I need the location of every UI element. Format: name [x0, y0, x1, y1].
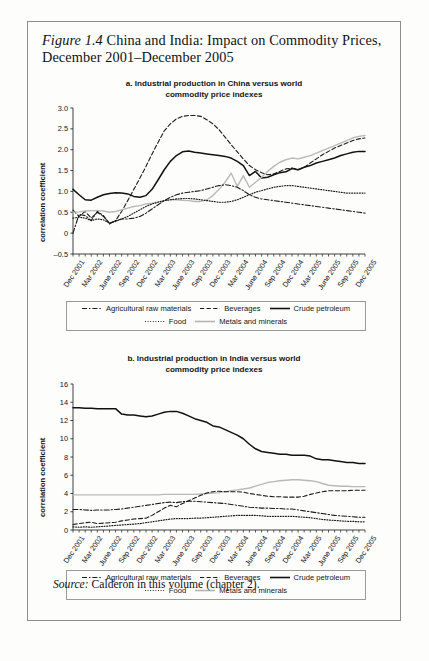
figure-frame: Figure 1.4 China and India: Impact on Co…: [27, 21, 401, 621]
y-tick-label: –0.5: [42, 250, 68, 259]
panel-b-title-line1: b. Industrial production in India versus…: [28, 354, 400, 365]
source-note: Source: Calderón in this volume (chapter…: [53, 578, 260, 591]
legend-item-label: Crude petroleum: [294, 304, 351, 313]
series-line: [73, 408, 365, 464]
legend-item-label: Food: [169, 317, 186, 326]
legend-item-metals-and-minerals: Metals and minerals: [195, 317, 287, 326]
y-tick-label: 14: [42, 398, 68, 407]
panel-a-legend: Agricultural raw materialsBeveragesCrude…: [66, 301, 366, 331]
legend-swatch-solid: [195, 318, 215, 325]
legend-item-crude-petroleum: Crude petroleum: [270, 304, 351, 313]
y-tick-label: 8: [42, 453, 68, 462]
y-tick-label: 2.0: [42, 145, 68, 154]
series-line: [73, 116, 365, 224]
y-tick-label: 0: [42, 526, 68, 535]
y-tick-label: 1.5: [42, 166, 68, 175]
y-tick-label: 0: [42, 229, 68, 238]
legend-item-beverages: Beverages: [200, 304, 260, 313]
legend-item-label: Agricultural raw materials: [106, 304, 191, 313]
legend-item-label: Beverages: [224, 304, 260, 313]
legend-swatch-solid: [270, 305, 290, 312]
legend-item-label: Crude petroleum: [294, 573, 351, 582]
series-line: [73, 186, 365, 224]
panel-a-legend-row1: Agricultural raw materialsBeveragesCrude…: [67, 302, 365, 315]
legend-swatch-dash-dot: [82, 305, 102, 312]
legend-swatch-dashed: [200, 305, 220, 312]
series-line: [73, 480, 365, 495]
y-tick-label: 0.5: [42, 208, 68, 217]
axis-lines: [73, 384, 365, 530]
y-tick-label: 16: [42, 380, 68, 389]
y-tick-label: 4: [42, 489, 68, 498]
panel-a-title-line1: a. Industrial production in China versus…: [28, 79, 400, 90]
series-line: [73, 151, 365, 200]
source-text: Calderón in this volume (chapter 2).: [92, 578, 260, 591]
y-tick-label: 12: [42, 416, 68, 425]
figure-page: Figure 1.4 China and India: Impact on Co…: [0, 0, 429, 661]
figure-label: Figure 1.4: [42, 32, 103, 48]
y-tick-label: 6: [42, 471, 68, 480]
panel-a-legend-row2: FoodMetals and minerals: [67, 315, 365, 328]
figure-title: Figure 1.4 China and India: Impact on Co…: [42, 32, 392, 66]
y-tick-label: 1.0: [42, 187, 68, 196]
legend-item-food: Food: [145, 317, 186, 326]
y-tick-label: 10: [42, 434, 68, 443]
legend-swatch-dotted: [145, 318, 165, 325]
legend-item-agricultural-raw-materials: Agricultural raw materials: [82, 304, 191, 313]
series-line: [73, 501, 365, 517]
series-line: [73, 185, 365, 233]
series-line: [73, 136, 365, 213]
source-label: Source:: [53, 578, 89, 591]
legend-item-label: Metals and minerals: [219, 317, 287, 326]
y-tick-label: 2.5: [42, 124, 68, 133]
y-tick-label: 3.0: [42, 104, 68, 113]
series-line: [73, 515, 365, 527]
y-tick-label: 2: [42, 507, 68, 516]
